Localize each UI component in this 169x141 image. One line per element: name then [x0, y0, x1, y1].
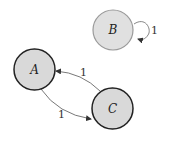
node-c: C: [92, 88, 133, 129]
edge-label-c-to-a: 1: [80, 66, 87, 79]
node-b: B: [93, 10, 133, 50]
edge-b-self-loop: 1: [134, 22, 158, 40]
edge-label-a-to-c: 1: [58, 108, 65, 121]
node-a-label: A: [29, 63, 39, 77]
edge-c-to-a: 1: [56, 66, 100, 91]
node-c-label: C: [108, 102, 117, 116]
node-a: A: [14, 49, 55, 90]
edge-a-to-c: 1: [41, 89, 91, 121]
state-diagram: 1 1 1 A B C: [0, 0, 169, 141]
edge-label-b-self: 1: [151, 24, 158, 37]
node-b-label: B: [108, 23, 118, 37]
